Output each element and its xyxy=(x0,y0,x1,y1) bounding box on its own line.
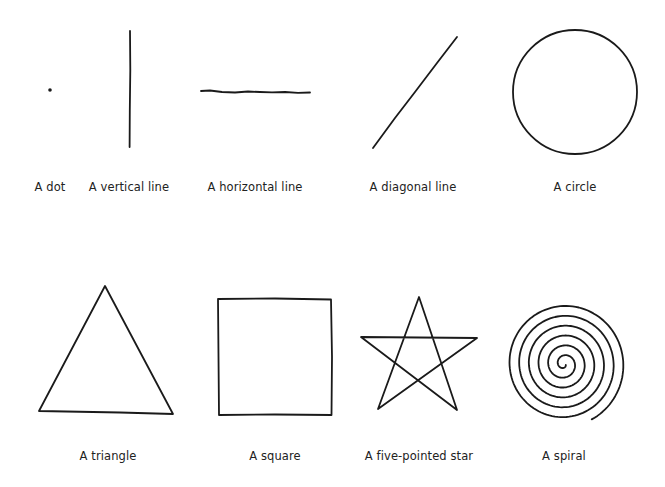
label-spiral: A spiral xyxy=(542,449,586,463)
label-vertical-line: A vertical line xyxy=(89,180,169,194)
star-shape xyxy=(361,297,477,410)
horizontal-line-shape xyxy=(201,91,310,93)
label-triangle: A triangle xyxy=(80,449,137,463)
label-square: A square xyxy=(249,449,301,463)
label-star: A five-pointed star xyxy=(365,449,473,463)
spiral-shape xyxy=(510,306,624,419)
circle-shape xyxy=(513,30,637,154)
label-circle: A circle xyxy=(554,180,597,194)
triangle-shape xyxy=(39,286,173,414)
dot-shape xyxy=(48,88,52,92)
square-shape xyxy=(218,299,332,416)
label-dot: A dot xyxy=(35,180,66,194)
diagonal-line-shape xyxy=(373,37,457,148)
label-horizontal-line: A horizontal line xyxy=(208,180,303,194)
label-diagonal-line: A diagonal line xyxy=(370,180,457,194)
vertical-line-shape xyxy=(130,31,131,147)
shapes-canvas xyxy=(0,0,665,487)
